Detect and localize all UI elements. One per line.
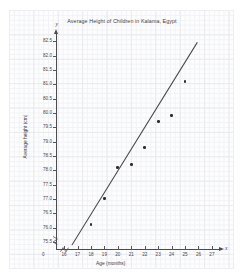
data-layer bbox=[18, 14, 226, 266]
x-axis-label: Age (months) bbox=[96, 261, 125, 266]
data-point bbox=[143, 146, 146, 149]
data-point bbox=[130, 163, 133, 166]
data-point bbox=[116, 166, 119, 169]
chart-screenshot: Average Height of Children in Kalama, Eg… bbox=[0, 0, 243, 279]
data-point bbox=[157, 120, 160, 123]
scatter-plot: Average Height of Children in Kalama, Eg… bbox=[18, 14, 226, 266]
y-axis-label: Average height (cm) bbox=[23, 101, 28, 173]
trend-line bbox=[72, 43, 197, 245]
data-point bbox=[170, 114, 173, 117]
data-point bbox=[103, 197, 106, 200]
